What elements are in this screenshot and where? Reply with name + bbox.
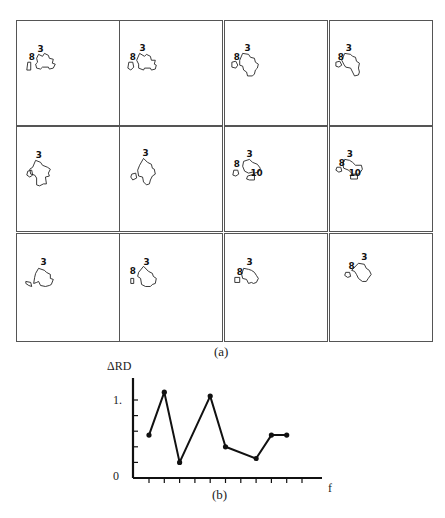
data-point: [162, 390, 167, 395]
data-point: [146, 433, 151, 438]
y-tick-label: 1.: [113, 393, 122, 407]
delta-rd-chart: 01.ΔRDf: [0, 0, 445, 518]
data-point: [284, 433, 289, 438]
y-axis-label: ΔRD: [107, 359, 132, 373]
caption-b: (b): [212, 487, 227, 503]
data-point: [177, 460, 182, 465]
x-axis-label: f: [328, 481, 332, 495]
data-point: [269, 433, 274, 438]
data-point: [254, 456, 259, 461]
data-point: [208, 394, 213, 399]
y-tick-label: 0: [113, 469, 119, 483]
data-line: [149, 392, 287, 462]
data-point: [223, 444, 228, 449]
